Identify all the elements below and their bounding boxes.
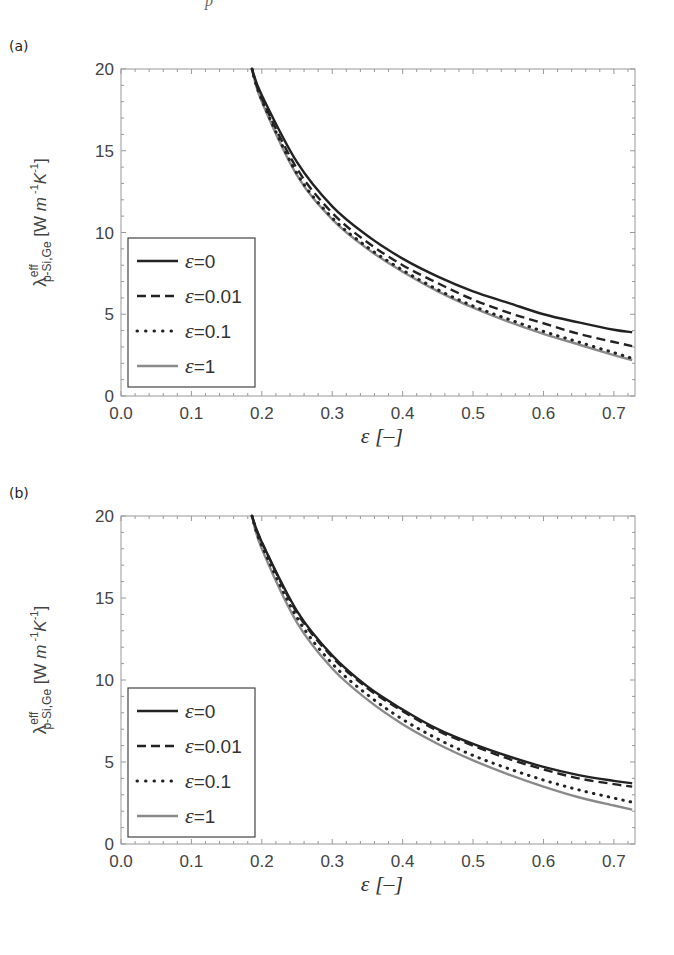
legend-label-value: =0.1	[194, 771, 232, 792]
y-axis-title-part: eff	[27, 263, 41, 277]
legend: ε=0ε=0.01ε=0.1ε=1	[128, 238, 255, 387]
x-tick-label: 0.3	[320, 852, 344, 871]
y-axis-title-part: p-Si,Ge	[40, 689, 54, 730]
x-tick-label: 0.6	[532, 852, 556, 871]
legend-label: ε=0.01	[185, 733, 242, 758]
y-axis-title-part: [W	[31, 211, 50, 241]
y-tick-label: 0	[105, 387, 114, 406]
x-tick-label: 0.6	[532, 404, 556, 423]
y-tick-label: 10	[95, 224, 114, 243]
series-line-1	[252, 69, 632, 360]
legend-label: ε=0	[185, 698, 215, 723]
y-axis-title-part: eff	[27, 711, 41, 725]
x-tick-label: 0.3	[320, 404, 344, 423]
y-axis-title-part: K	[31, 620, 50, 632]
x-tick-label: 0.1	[180, 852, 204, 871]
y-axis-title-part: -1	[28, 163, 40, 173]
x-tick-label: 0.5	[461, 852, 485, 871]
series-line-0_01	[252, 69, 632, 346]
x-tick-label: 0.4	[391, 404, 415, 423]
x-tick-label: 0.7	[602, 852, 626, 871]
series-line-0_1	[252, 516, 632, 802]
y-axis-title: λeffp-Si,Ge [W m -1K-1]	[27, 606, 54, 734]
y-tick-label: 20	[95, 60, 114, 79]
legend-label-symbol: ε	[185, 698, 194, 723]
legend-label-symbol: ε	[185, 733, 194, 758]
legend-label-value: =1	[194, 806, 216, 827]
y-tick-label: 5	[105, 305, 114, 324]
y-axis-title-text: λeffp-Si,Ge [W m -1K-1]	[27, 606, 54, 734]
legend-label-symbol: ε	[185, 283, 194, 308]
x-tick-label: 0.0	[109, 852, 133, 871]
series-line-1	[252, 516, 632, 810]
y-tick-label: 15	[95, 589, 114, 608]
series-line-0_1	[252, 69, 632, 358]
legend-label: ε=0.1	[185, 768, 231, 793]
x-tick-label: 0.1	[180, 404, 204, 423]
y-tick-label: 15	[95, 142, 114, 161]
legend-label-value: =1	[194, 356, 216, 377]
y-axis-title-part: K	[31, 172, 50, 184]
legend-label-value: =0	[194, 701, 216, 722]
chart-panel-a: 0.00.10.20.30.40.50.60.705101520ε [–]λef…	[27, 60, 635, 448]
y-axis-title-part: -1	[28, 184, 40, 197]
legend-label-value: =0.1	[194, 321, 232, 342]
x-tick-label: 0.7	[602, 404, 626, 423]
legend-label: ε=0	[185, 248, 215, 273]
y-axis-title-part: -1	[28, 611, 40, 621]
legend-label: ε=0.1	[185, 318, 231, 343]
y-axis-title-part: m	[31, 645, 50, 659]
y-tick-label: 20	[95, 507, 114, 526]
figure-canvas: 0.00.10.20.30.40.50.60.705101520ε [–]λef…	[0, 0, 674, 955]
legend-label-symbol: ε	[185, 768, 194, 793]
y-axis-title-text: λeffp-Si,Ge [W m -1K-1]	[27, 158, 54, 286]
legend-label: ε=0.01	[185, 283, 242, 308]
legend-label-symbol: ε	[185, 353, 194, 378]
legend-label-value: =0.01	[194, 286, 242, 307]
x-axis-title: ε [–]	[361, 423, 403, 448]
legend-label-symbol: ε	[185, 318, 194, 343]
legend-label-symbol: ε	[185, 803, 194, 828]
legend-label: ε=1	[185, 353, 215, 378]
x-tick-label: 0.2	[250, 852, 274, 871]
chart-panel-b: 0.00.10.20.30.40.50.60.705101520ε [–]λef…	[27, 507, 635, 896]
legend-label-value: =0.01	[194, 736, 242, 757]
legend: ε=0ε=0.01ε=0.1ε=1	[128, 688, 255, 837]
x-tick-label: 0.0	[109, 404, 133, 423]
x-axis-title: ε [–]	[361, 871, 403, 896]
y-tick-label: 5	[105, 753, 114, 772]
y-axis-title-part: ]	[31, 158, 50, 163]
legend-label-symbol: ε	[185, 248, 194, 273]
y-axis-title-part: -1	[28, 632, 40, 645]
legend-label: ε=1	[185, 803, 215, 828]
x-tick-label: 0.2	[250, 404, 274, 423]
y-axis-title-part: ]	[31, 606, 50, 611]
y-axis-title: λeffp-Si,Ge [W m -1K-1]	[27, 158, 54, 286]
x-tick-label: 0.5	[461, 404, 485, 423]
legend-label-value: =0	[194, 251, 216, 272]
y-axis-title-part: p-Si,Ge	[40, 241, 54, 282]
y-axis-title-part: m	[31, 197, 50, 211]
series-line-0	[252, 516, 632, 783]
y-tick-label: 10	[95, 671, 114, 690]
x-tick-label: 0.4	[391, 852, 415, 871]
y-tick-label: 0	[105, 835, 114, 854]
y-axis-title-part: [W	[31, 659, 50, 689]
